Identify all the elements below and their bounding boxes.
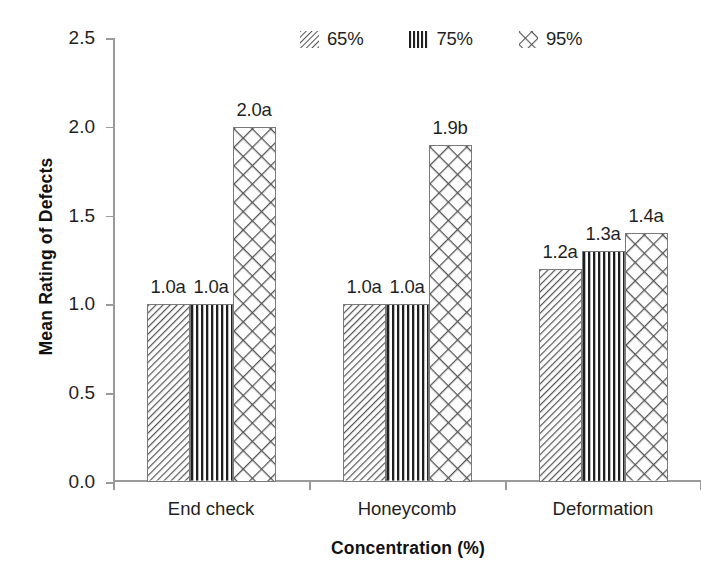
bar-65-honeycomb[interactable]: 1.0a	[343, 38, 386, 482]
y-tick-label: 0.0	[69, 471, 95, 493]
bar-rect	[147, 304, 190, 482]
bar-rect	[386, 304, 429, 482]
bar-value-label: 1.3a	[586, 223, 621, 245]
bar-value-label: 1.0a	[347, 276, 382, 298]
y-axis-title: Mean Rating of Defects	[36, 127, 57, 387]
bar-75-end-check[interactable]: 1.0a	[190, 38, 233, 482]
bar-75-honeycomb[interactable]: 1.0a	[386, 38, 429, 482]
y-tick-0.0: 0.0	[106, 482, 113, 484]
bar-rect	[582, 251, 625, 482]
bar-value-label: 2.0a	[237, 99, 272, 121]
x-tick	[700, 482, 702, 490]
bar-rect	[625, 233, 668, 482]
bar-value-label: 1.9b	[433, 117, 468, 139]
y-tick-label: 0.5	[69, 382, 95, 404]
bar-rect	[190, 304, 233, 482]
bar-95-end-check[interactable]: 2.0a	[233, 38, 276, 482]
y-tick-1.0: 1.0	[106, 304, 113, 306]
x-tick	[309, 482, 311, 490]
y-tick-label: 1.0	[69, 293, 95, 315]
bar-group: 1.0a1.0a1.9bHoneycomb	[309, 38, 505, 482]
x-category-label: Honeycomb	[309, 498, 505, 520]
y-tick-label: 1.5	[69, 204, 95, 226]
bar-75-deformation[interactable]: 1.3a	[582, 38, 625, 482]
bar-value-label: 1.0a	[151, 276, 186, 298]
x-category-label: End check	[113, 498, 309, 520]
y-tick-0.5: 0.5	[106, 393, 113, 395]
bar-value-label: 1.4a	[629, 205, 664, 227]
bar-rect	[539, 269, 582, 482]
bar-rect	[343, 304, 386, 482]
bar-95-deformation[interactable]: 1.4a	[625, 38, 668, 482]
x-category-label: Deformation	[505, 498, 701, 520]
bar-chart: 65% 75% 95% Mean Rating of Defects 0.00.…	[0, 0, 727, 588]
y-tick-2.0: 2.0	[106, 127, 113, 129]
bar-65-end-check[interactable]: 1.0a	[147, 38, 190, 482]
bar-group: 1.0a1.0a2.0aEnd check	[113, 38, 309, 482]
y-tick-label: 2.0	[69, 115, 95, 137]
plot-area: 0.00.51.01.52.02.5 1.0a1.0a2.0aEnd check…	[113, 38, 701, 482]
x-tick	[113, 482, 115, 490]
bar-rect	[233, 127, 276, 482]
y-tick-2.5: 2.5	[106, 38, 113, 40]
bar-group: 1.2a1.3a1.4aDeformation	[505, 38, 701, 482]
y-tick-label: 2.5	[69, 27, 95, 49]
bar-value-label: 1.0a	[194, 276, 229, 298]
bar-value-label: 1.2a	[543, 241, 578, 263]
y-tick-1.5: 1.5	[106, 216, 113, 218]
bar-groups: 1.0a1.0a2.0aEnd check1.0a1.0a1.9bHoneyco…	[113, 38, 701, 482]
x-axis-title: Concentration (%)	[113, 538, 703, 559]
bar-65-deformation[interactable]: 1.2a	[539, 38, 582, 482]
bar-value-label: 1.0a	[390, 276, 425, 298]
x-tick	[505, 482, 507, 490]
bar-rect	[429, 145, 472, 482]
bar-95-honeycomb[interactable]: 1.9b	[429, 38, 472, 482]
